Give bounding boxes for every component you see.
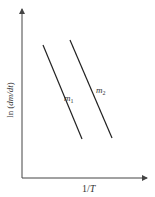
- series-label-m1: m1: [64, 93, 74, 104]
- series-line-m2: [70, 40, 112, 138]
- series-line-m1: [43, 45, 82, 139]
- y-axis-label: ln(dm/dt): [5, 82, 15, 118]
- chart: m1 m2 1/T ln(dm/dt): [0, 0, 155, 197]
- x-axis-label: 1/T: [82, 183, 97, 194]
- series-label-m2: m2: [96, 85, 106, 96]
